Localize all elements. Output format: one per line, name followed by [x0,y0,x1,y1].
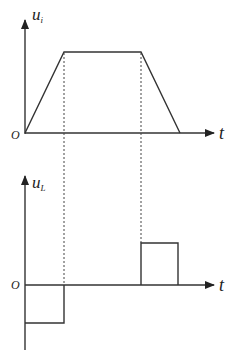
top-y-label: ui [32,5,44,25]
ui-trapezoid-waveform [25,52,180,133]
top-graph: ui t O [11,5,225,143]
top-origin-label: O [11,128,20,142]
ul-positive-pulse [141,243,178,285]
ul-negative-pulse [25,285,64,323]
bottom-graph: uL t O [11,173,225,350]
bottom-y-label: uL [32,173,46,193]
bottom-origin-label: O [11,278,20,292]
diagram-canvas: ui t O uL t O [0,0,236,358]
top-x-label: t [219,123,225,143]
bottom-x-label: t [219,275,225,295]
